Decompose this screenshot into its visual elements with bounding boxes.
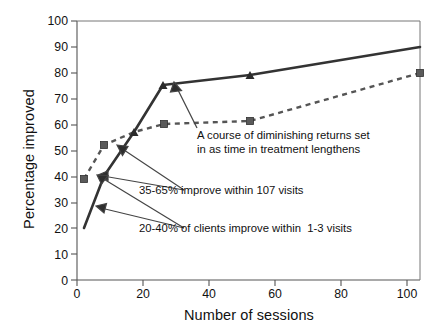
dashed-series [81, 70, 424, 183]
chart-figure: Percentage improved Number of sessions 1… [0, 0, 442, 336]
x-axis-ticks [77, 280, 407, 286]
plot-area [0, 0, 442, 336]
diminishing-returns-note: A course of diminishing returns setin as… [197, 129, 370, 156]
note1-line1: A course of diminishing returns set [197, 129, 370, 141]
early-range-note: 20-40% of clients improve within 1-3 vis… [139, 222, 352, 236]
y-axis-ticks [71, 21, 77, 280]
mid-range-note: 35-65% improve within 107 visits [139, 184, 304, 198]
note1-line2: in as time in treatment lengthens [197, 143, 360, 155]
annotation-arrows [96, 82, 197, 228]
